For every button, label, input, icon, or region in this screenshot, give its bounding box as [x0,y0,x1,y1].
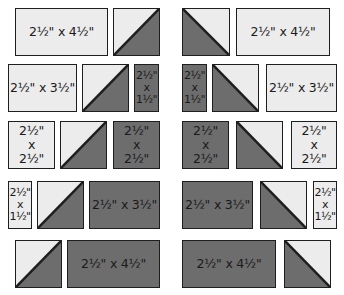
hst-triangle-icon [83,65,128,111]
half-square-triangle-r2-r-hst [212,64,259,112]
hst-triangle-icon [38,182,83,228]
fabric-piece-r5-r-rect: 2½" x 4½" [182,240,276,288]
piece-size-label: 2½" x 4½" [196,257,261,271]
piece-size-label: 2½" x 3½" [92,198,157,212]
fabric-piece-r3-l-sq1: 2½" x 2½" [8,121,55,169]
fabric-piece-r4-l-narrow: 2½" x 1½" [8,181,32,229]
piece-size-label: 2½" x 1½" [136,70,157,106]
fabric-piece-r2-l-rect: 2½" x 3½" [8,64,77,112]
half-square-triangle-r4-r-hst [260,181,307,229]
half-square-triangle-r1-l-hst [113,8,160,56]
fabric-piece-r3-r-sq1: 2½" x 2½" [182,121,229,169]
fabric-piece-r4-r-rect: 2½" x 3½" [182,181,253,229]
half-square-triangle-r4-l-hst [37,181,84,229]
hst-triangle-icon [114,9,159,55]
half-square-triangle-r1-r-hst [182,8,230,56]
half-square-triangle-r3-r-hst [236,121,283,169]
piece-size-label: 2½" x 3½" [10,81,75,95]
hst-triangle-icon [213,65,258,111]
hst-triangle-icon [237,122,282,168]
piece-size-label: 2½" x 4½" [250,25,315,39]
hst-triangle-icon [261,182,306,228]
fabric-piece-r1-r-rect: 2½" x 4½" [236,8,330,56]
piece-size-label: 2½" x 2½" [19,124,44,166]
hst-triangle-icon [61,122,106,168]
fabric-piece-r2-r-rect: 2½" x 3½" [266,64,337,112]
half-square-triangle-r5-r-hst [284,240,331,288]
piece-size-label: 2½" x 2½" [193,124,218,166]
piece-size-label: 2½" x 2½" [301,124,326,166]
fabric-piece-r4-r-narrow: 2½" x 1½" [313,181,337,229]
piece-size-label: 2½" x 2½" [124,124,149,166]
piece-size-label: 2½" x 1½" [10,187,31,223]
piece-size-label: 2½" x 4½" [29,25,94,39]
fabric-piece-r3-l-sq2: 2½" x 2½" [113,121,160,169]
hst-triangle-icon [16,241,61,287]
hst-triangle-icon [285,241,330,287]
half-square-triangle-r5-l-hst [15,240,62,288]
half-square-triangle-r2-l-hst [82,64,129,112]
half-square-triangle-r3-l-hst [60,121,107,169]
fabric-piece-r3-r-sq2: 2½" x 2½" [291,121,337,169]
piece-size-label: 2½" x 3½" [185,198,250,212]
piece-size-label: 2½" x 3½" [269,81,334,95]
piece-size-label: 2½" x 4½" [81,257,146,271]
fabric-piece-r2-l-narrow: 2½" x 1½" [134,64,159,112]
fabric-piece-r2-r-narrow: 2½" x 1½" [182,64,207,112]
fabric-piece-r1-l-rect: 2½" x 4½" [15,8,108,56]
hst-triangle-icon [183,9,229,55]
piece-size-label: 2½" x 1½" [315,187,336,223]
fabric-piece-r5-l-rect: 2½" x 4½" [67,240,160,288]
piece-size-label: 2½" x 1½" [184,70,205,106]
fabric-piece-r4-l-rect: 2½" x 3½" [89,181,160,229]
